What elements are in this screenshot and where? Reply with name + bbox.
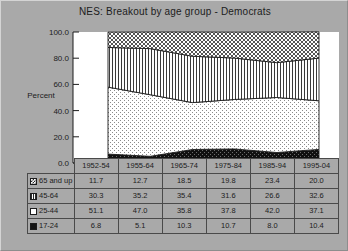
legend-label-text: 25-44 [39,206,58,215]
table-column-header: 1955-64 [118,159,162,174]
table-cell: 32.6 [294,188,338,203]
table-header-row: 1952-541955-641965-741975-841985-941995-… [28,159,339,174]
legend-label-text: 45-64 [39,191,58,200]
solid-swatch [30,223,37,230]
y-axis-tick-label: 40.0 [53,107,69,116]
table-column-header: 1995-04 [294,159,338,174]
stacked-area-chart: 0.020.040.060.080.0100.0 Percent [1,1,348,176]
table-cell: 31.6 [206,188,250,203]
table-cell: 11.7 [74,173,118,188]
legend-row-label: 65 and up [28,173,75,188]
table-corner-cell [28,159,75,174]
legend-label-text: 65 and up [39,176,72,185]
table-cell: 10.4 [294,218,338,233]
table-cell: 23.4 [250,173,294,188]
table-row: 45-6430.335.235.431.626.632.6 [28,188,339,203]
table-cell: 47.0 [118,203,162,218]
table-cell: 19.8 [206,173,250,188]
white-swatch [30,208,37,215]
table-cell: 35.2 [118,188,162,203]
table-cell: 5.1 [118,218,162,233]
y-axis-tick-label: 80.0 [53,54,69,63]
table-cell: 35.4 [162,188,206,203]
table-cell: 37.8 [206,203,250,218]
y-axis-title: Percent [27,91,55,100]
legend-row-label: 25-44 [28,203,75,218]
table-column-header: 1965-74 [162,159,206,174]
area-bands [108,32,319,163]
table-cell: 30.3 [74,188,118,203]
table-cell: 37.1 [294,203,338,218]
data-table: 1952-541955-641965-741975-841985-941995-… [27,158,339,234]
table-cell: 10.7 [206,218,250,233]
table-cell: 10.3 [162,218,206,233]
table-cell: 6.8 [74,218,118,233]
table-column-header: 1975-84 [206,159,250,174]
table-row: 65 and up11.712.718.519.823.420.0 [28,173,339,188]
checker-swatch [30,178,37,185]
legend-row-label: 17-24 [28,218,75,233]
chart-window: NES: Breakout by age group - Democrats [0,0,348,251]
table-cell: 35.8 [162,203,206,218]
y-axis-tick-label: 60.0 [53,80,69,89]
table-column-header: 1985-94 [250,159,294,174]
vstripe-swatch [30,193,37,200]
legend-label-text: 17-24 [39,221,58,230]
table-column-header: 1952-54 [74,159,118,174]
table-row: 17-246.85.110.310.78.010.4 [28,218,339,233]
table-cell: 12.7 [118,173,162,188]
y-axis-tick-label: 20.0 [53,133,69,142]
y-axis-tick-label: 100.0 [49,28,70,37]
table-cell: 51.1 [74,203,118,218]
legend-row-label: 45-64 [28,188,75,203]
table-cell: 26.6 [250,188,294,203]
table-cell: 42.0 [250,203,294,218]
table-cell: 18.5 [162,173,206,188]
table-cell: 8.0 [250,218,294,233]
table-row: 25-4451.147.035.837.842.037.1 [28,203,339,218]
table-cell: 20.0 [294,173,338,188]
